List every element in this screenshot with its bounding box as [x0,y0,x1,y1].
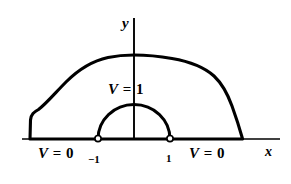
right-potential-value: 0 [217,145,225,161]
inner-potential-label: V = 1 [108,82,144,97]
inner-potential-value: 1 [136,81,144,97]
inner-potential-symbol: V [108,81,119,97]
left-potential-label: V = 0 [38,146,74,161]
right-potential-symbol: V [189,145,200,161]
outer-boundary-curve [30,55,243,139]
x-axis-label: x [265,145,272,159]
x-tick-label-minus-one: −1 [88,154,100,165]
open-circle-plus-one-marker [167,136,173,142]
left-potential-symbol: V [38,145,49,161]
left-potential-value: 0 [66,145,74,161]
x-tick-label-plus-one: 1 [166,153,172,164]
right-potential-equals: = [204,145,213,161]
inner-potential-equals: = [123,81,132,97]
open-circle-minus-one-marker [95,136,101,142]
figure-container: y x V = 1 V = 0 V = 0 −1 1 [0,0,291,184]
right-potential-label: V = 0 [189,146,225,161]
y-axis-label: y [122,16,129,31]
left-potential-equals: = [53,145,62,161]
